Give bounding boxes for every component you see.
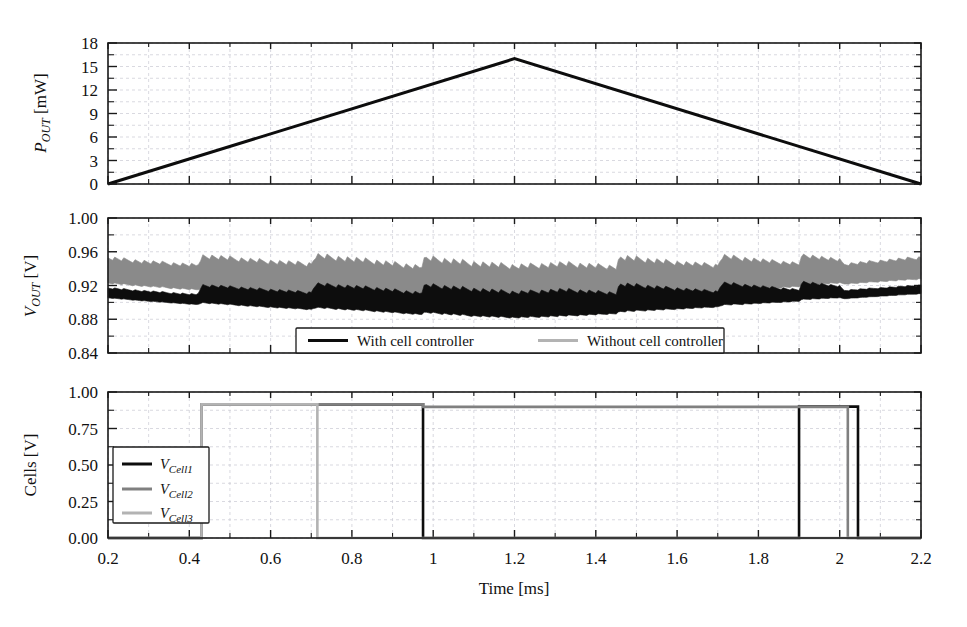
y-tick-label: 6: [90, 128, 99, 147]
panel3-y-axis-title: Cells [V]: [21, 434, 40, 497]
x-axis-title: Time [ms]: [479, 579, 550, 598]
y-tick-label: 0.84: [68, 344, 98, 363]
panel2-legend-label-without: Without cell controller: [587, 333, 723, 349]
x-tick-label: 1.8: [748, 549, 769, 568]
panel2-ylabel-subscript: OUT: [29, 281, 43, 306]
y-tick-label: 3: [90, 152, 99, 171]
panel3-ylabel-symbol: Cells: [21, 461, 40, 496]
x-tick-label: 1: [429, 549, 438, 568]
figure-root: 0369121518 POUT [mW] 0.840.880.920.961.0…: [0, 0, 967, 627]
x-tick-label: 2.2: [910, 549, 931, 568]
panel2-legend-label-with: With cell controller: [357, 333, 474, 349]
y-tick-label: 18: [81, 34, 98, 53]
x-tick-label: 2: [835, 549, 844, 568]
x-tick-label: 0.2: [97, 549, 118, 568]
y-tick-label: 12: [81, 81, 98, 100]
svg-text:POUT [mW]: POUT [mW]: [31, 73, 53, 153]
cell2-subscript: Cell2: [169, 488, 193, 500]
x-tick-label: 0.8: [341, 549, 362, 568]
panel-cell-voltages: 0.000.250.500.751.00 VCell1 VCell2 VCell…: [21, 383, 921, 548]
x-tick-label: 0.6: [260, 549, 281, 568]
svg-text:VOUT [V]: VOUT [V]: [21, 255, 43, 317]
y-tick-label: 15: [81, 58, 98, 77]
panel2-legend: With cell controller Without cell contro…: [296, 328, 724, 353]
panel-output-voltage: 0.840.880.920.961.00 With cell controlle…: [21, 209, 921, 363]
y-tick-label: 0.96: [68, 243, 98, 262]
panel2-y-axis-title: VOUT [V]: [21, 255, 43, 317]
x-tick-labels: 0.20.40.60.811.21.41.61.822.2: [97, 549, 931, 568]
x-tick-label: 0.4: [179, 549, 201, 568]
panel3-ytick-labels: 0.000.250.500.751.00: [68, 383, 98, 548]
y-tick-label: 0.88: [68, 310, 98, 329]
y-tick-label: 0.00: [68, 529, 98, 548]
svg-text:Cells [V]: Cells [V]: [21, 434, 40, 497]
figure-canvas: 0369121518 POUT [mW] 0.840.880.920.961.0…: [0, 0, 967, 627]
cell1-subscript: Cell1: [169, 463, 193, 475]
cell3-subscript: Cell3: [169, 512, 193, 524]
y-tick-label: 9: [90, 105, 99, 124]
y-tick-label: 0: [90, 175, 99, 194]
x-tick-label: 1.4: [585, 549, 607, 568]
panel3-ylabel-unit: [V]: [21, 434, 40, 458]
x-tick-label: 1.2: [504, 549, 525, 568]
panel3-legend: VCell1 VCell2 VCell3: [113, 447, 209, 524]
panel-output-power: 0369121518 POUT [mW]: [31, 34, 921, 194]
y-tick-label: 0.75: [68, 420, 98, 439]
panel1-ylabel-unit: [mW]: [31, 73, 50, 114]
y-tick-label: 0.50: [68, 456, 98, 475]
panel1-ylabel-symbol: P: [31, 142, 50, 153]
panel1-ytick-labels: 0369121518: [81, 34, 98, 194]
y-tick-label: 1.00: [68, 383, 98, 402]
y-tick-label: 1.00: [68, 209, 98, 228]
panel2-ytick-labels: 0.840.880.920.961.00: [68, 209, 98, 363]
panel1-ylabel-subscript: OUT: [39, 117, 53, 142]
panel2-ylabel-unit: [V]: [21, 255, 40, 279]
x-tick-label: 1.6: [666, 549, 687, 568]
panel1-grid: [108, 43, 921, 184]
panel1-y-axis-title: POUT [mW]: [31, 73, 53, 153]
x-axis: 0.20.40.60.811.21.41.61.822.2 Time [ms]: [97, 549, 931, 598]
y-tick-label: 0.92: [68, 277, 98, 296]
y-tick-label: 0.25: [68, 493, 98, 512]
